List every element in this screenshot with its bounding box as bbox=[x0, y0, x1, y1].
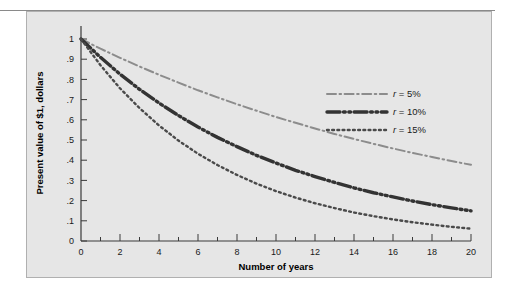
x-tick-label: 10 bbox=[271, 247, 281, 257]
y-tick-label: .4 bbox=[66, 155, 74, 165]
y-axis-tick-labels: 0.1.2.3.4.5.6.7.8.91 bbox=[66, 34, 74, 246]
x-tick-label: 14 bbox=[349, 247, 359, 257]
y-tick-label: .8 bbox=[66, 75, 74, 85]
y-tick-label: .1 bbox=[66, 216, 74, 226]
y-axis-ticks bbox=[81, 39, 87, 241]
legend-label-2: r = 15% bbox=[393, 124, 427, 135]
x-axis-tick-labels: 02468101214161820 bbox=[78, 247, 476, 257]
x-axis-title: Number of years bbox=[239, 261, 314, 272]
y-tick-label: .2 bbox=[66, 196, 74, 206]
present-value-line-chart: 0.1.2.3.4.5.6.7.8.91 02468101214161820 N… bbox=[27, 12, 491, 277]
y-tick-label: .5 bbox=[66, 135, 74, 145]
legend-label-1: r = 10% bbox=[393, 106, 427, 117]
x-tick-label: 16 bbox=[388, 247, 398, 257]
x-tick-label: 20 bbox=[466, 247, 476, 257]
x-tick-label: 6 bbox=[195, 247, 200, 257]
x-tick-label: 0 bbox=[78, 247, 83, 257]
y-tick-label: 1 bbox=[69, 34, 74, 44]
legend-label-0: r = 5% bbox=[393, 88, 421, 99]
figure-panel: 0.1.2.3.4.5.6.7.8.91 02468101214161820 N… bbox=[26, 11, 492, 278]
series-line-0 bbox=[81, 39, 471, 165]
y-tick-label: .6 bbox=[66, 115, 74, 125]
x-tick-label: 8 bbox=[234, 247, 239, 257]
x-tick-label: 4 bbox=[156, 247, 161, 257]
x-tick-label: 2 bbox=[117, 247, 122, 257]
y-axis-title: Present value of $1, dollars bbox=[34, 71, 45, 194]
x-tick-label: 18 bbox=[427, 247, 437, 257]
y-tick-label: 0 bbox=[69, 236, 74, 246]
y-tick-label: .7 bbox=[66, 95, 74, 105]
chart-legend: r = 5%r = 10%r = 15% bbox=[327, 88, 427, 135]
y-tick-label: .3 bbox=[66, 176, 74, 186]
y-tick-label: .9 bbox=[66, 54, 74, 64]
x-tick-label: 12 bbox=[310, 247, 320, 257]
